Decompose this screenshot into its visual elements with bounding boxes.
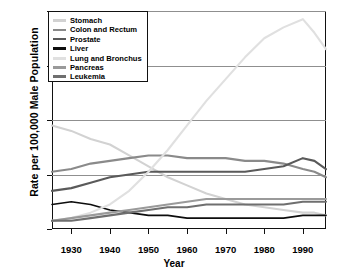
legend-swatch-icon (53, 75, 66, 78)
y-tick-0 (47, 229, 52, 230)
legend-swatch-icon (53, 19, 66, 21)
x-tick-1980 (264, 229, 265, 234)
legend-item-label: Liver (70, 44, 88, 53)
legend-swatch-icon (53, 47, 66, 50)
x-tick-label-1980: 1980 (244, 244, 284, 255)
legend-swatch-icon (53, 57, 66, 60)
y-axis-title: Rate per 100,000 Male Population (28, 12, 40, 212)
legend-item-label: Prostate (70, 35, 100, 44)
legend-item-label: Lung and Bronchus (70, 54, 142, 63)
legend-item-colon-and-rectum[interactable]: Colon and Rectum (53, 25, 147, 34)
x-tick-1970 (226, 229, 227, 234)
x-tick-label-1940: 1940 (90, 244, 130, 255)
x-tick-1990 (303, 229, 304, 234)
cropped-title (0, 0, 348, 2)
x-tick-label-1960: 1960 (167, 244, 207, 255)
x-tick-1930 (71, 229, 72, 234)
x-axis-title: Year (0, 258, 348, 269)
x-tick-label-1950: 1950 (128, 244, 168, 255)
x-tick-label-1990: 1990 (283, 244, 323, 255)
legend-item-label: Leukemia (70, 72, 105, 81)
legend-item-prostate[interactable]: Prostate (53, 35, 147, 44)
x-tick-1940 (110, 229, 111, 234)
legend-item-label: Pancreas (70, 63, 104, 72)
legend-item-label: Stomach (70, 16, 102, 25)
legend-item-pancreas[interactable]: Pancreas (53, 63, 147, 72)
x-tick-label-1970: 1970 (206, 244, 246, 255)
legend: StomachColon and RectumProstateLiverLung… (48, 11, 148, 82)
chart-container: Rate per 100,000 Male Population Year 02… (0, 0, 348, 272)
x-tick-1960 (187, 229, 188, 234)
legend-item-liver[interactable]: Liver (53, 44, 147, 53)
legend-item-label: Colon and Rectum (70, 25, 137, 34)
legend-item-leukemia[interactable]: Leukemia (53, 72, 147, 81)
legend-swatch-icon (53, 66, 66, 69)
x-tick-label-1930: 1930 (51, 244, 91, 255)
legend-swatch-icon (53, 29, 66, 31)
legend-swatch-icon (53, 38, 66, 40)
legend-item-stomach[interactable]: Stomach (53, 16, 147, 25)
legend-item-lung-and-bronchus[interactable]: Lung and Bronchus (53, 54, 147, 63)
x-tick-1950 (148, 229, 149, 234)
